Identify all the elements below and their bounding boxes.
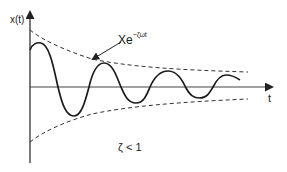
damped-vibration-diagram: x(t) t Xe−ζωt ζ < 1 (0, 0, 287, 172)
envelope-label-exponent: −ζωt (133, 31, 147, 38)
diagram-graphics (0, 0, 287, 172)
envelope-label-base: Xe (118, 33, 133, 47)
damped-oscillation-curve (30, 43, 240, 116)
annotation-arrow (93, 42, 121, 59)
damping-condition-label: ζ < 1 (118, 141, 142, 153)
x-axis-label: t (268, 92, 271, 104)
envelope-label: Xe−ζωt (118, 33, 147, 47)
y-axis-label: x(t) (10, 14, 24, 25)
